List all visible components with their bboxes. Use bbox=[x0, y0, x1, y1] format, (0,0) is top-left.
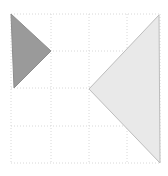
figure-svg bbox=[0, 0, 168, 176]
figure-canvas bbox=[0, 0, 168, 176]
